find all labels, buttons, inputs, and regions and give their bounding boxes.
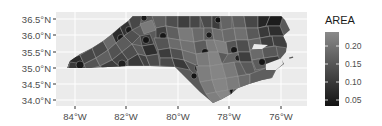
x-tick-label: 80°W <box>166 111 189 122</box>
county <box>178 16 190 28</box>
county <box>206 32 212 38</box>
y-tick-label: 35.5°N <box>22 47 51 58</box>
county <box>259 59 266 66</box>
county <box>222 28 236 42</box>
y-axis: 36.5°N 36.0°N 35.5°N 35.0°N 34.5°N 34.0°… <box>22 14 56 106</box>
legend-break-label: 0.10 <box>345 77 362 87</box>
county <box>226 76 240 90</box>
x-axis: 84°W 82°W 80°W 78°W 76°W <box>63 106 292 122</box>
county <box>220 16 232 30</box>
x-tick-label: 78°W <box>217 111 240 122</box>
county <box>232 16 246 28</box>
county <box>191 73 197 79</box>
county <box>236 40 250 52</box>
x-tick-label: 76°W <box>269 111 292 122</box>
legend-colorbar <box>325 32 339 106</box>
legend-break-label: 0.20 <box>345 41 362 51</box>
county <box>76 61 84 69</box>
legend: AREA 0.20 0.15 0.10 0.05 <box>325 14 362 106</box>
county <box>238 52 252 62</box>
x-tick-label: 82°W <box>114 111 137 122</box>
county <box>143 37 150 44</box>
county <box>158 48 172 58</box>
nc-area-map-chart: 36.5°N 36.0°N 35.5°N 35.0°N 34.5°N 34.0°… <box>0 0 382 126</box>
legend-break-label: 0.05 <box>345 95 362 105</box>
legend-title: AREA <box>325 14 356 26</box>
county <box>196 52 210 66</box>
x-tick-label: 84°W <box>63 111 86 122</box>
y-tick-label: 35.0°N <box>22 63 51 74</box>
legend-break-label: 0.15 <box>345 59 362 69</box>
county <box>244 16 258 28</box>
y-tick-label: 36.5°N <box>22 14 51 25</box>
county <box>234 28 248 40</box>
y-tick-label: 36.0°N <box>22 30 51 41</box>
y-tick-label: 34.5°N <box>22 79 51 90</box>
county <box>192 28 204 42</box>
county <box>190 16 200 28</box>
y-tick-label: 34.0°N <box>22 95 51 106</box>
